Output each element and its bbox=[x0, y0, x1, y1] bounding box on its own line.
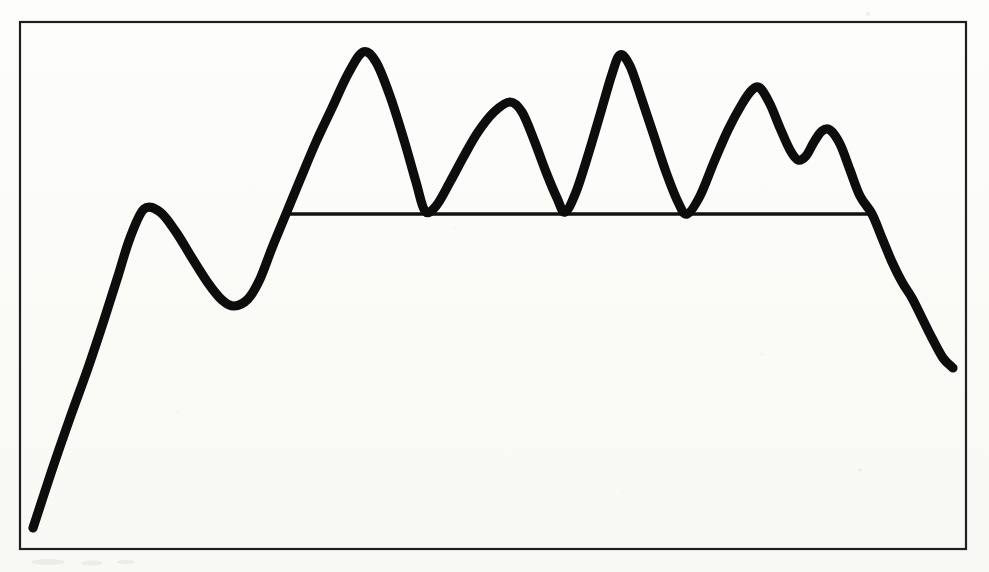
scan-smudge-left-3 bbox=[117, 560, 135, 564]
signal-waveform-curve bbox=[33, 52, 953, 528]
plot-frame-border bbox=[20, 22, 966, 549]
scan-smudge-left-2 bbox=[81, 561, 103, 566]
scan-smudge-left bbox=[31, 559, 65, 565]
scan-speck-top-right bbox=[866, 12, 870, 16]
scan-speck-lower-right bbox=[858, 468, 862, 472]
waveform-plot bbox=[0, 0, 989, 572]
figure-container bbox=[0, 0, 989, 572]
